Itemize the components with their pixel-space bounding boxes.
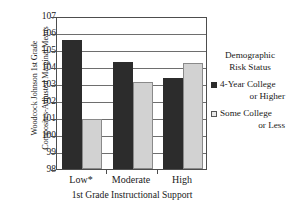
legend-entry-4year-college: 4-Year College or Higher <box>211 79 291 102</box>
legend-swatch-dark-icon <box>211 82 217 88</box>
bar-chart-figure: Woodcock Johnson 1st Grade Composites-Ad… <box>0 0 294 204</box>
legend-title: Demographic Risk Status <box>211 50 289 73</box>
x-tick-label-high: High <box>147 174 217 185</box>
bar-moderate-4year-college-or-higher <box>113 62 133 169</box>
legend-title-line-2: Risk Status <box>229 62 271 72</box>
plot-area <box>56 17 207 170</box>
x-axis-title: 1st Grade Instructional Support <box>32 189 232 200</box>
legend-title-line-1: Demographic <box>225 50 275 60</box>
legend-entry-some-college: Some College or Less <box>211 108 291 131</box>
bar-moderate-some-college-or-less <box>133 82 153 169</box>
bar-low-some-college-or-less <box>82 119 102 169</box>
bar-low-4year-college-or-higher <box>62 40 82 169</box>
bar-high-4year-college-or-higher <box>163 78 183 169</box>
legend-label-some-college-line-1: Some College <box>220 108 291 120</box>
y-axis-title: Woodcock Johnson 1st Grade Composites-Ad… <box>0 0 32 175</box>
y-tick-mark-98 <box>51 170 56 171</box>
bar-high-some-college-or-less <box>183 63 203 170</box>
gridline-106 <box>57 34 206 35</box>
chart-legend: Demographic Risk Status 4-Year College o… <box>211 50 294 131</box>
legend-label-4year-college-line-1: 4-Year College <box>220 79 291 91</box>
legend-swatch-light-icon <box>211 111 217 117</box>
legend-label-4year-college-line-2: or Higher <box>220 91 291 103</box>
legend-label-some-college-line-2: or Less <box>220 120 291 132</box>
